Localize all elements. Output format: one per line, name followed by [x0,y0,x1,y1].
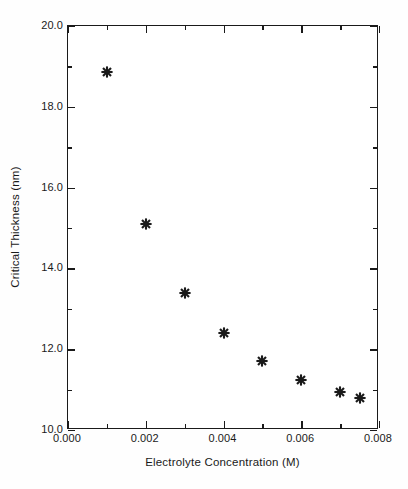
data-point-7[interactable] [353,391,366,404]
data-point-0[interactable] [100,66,113,79]
x-tick-label-0: 0.000 [53,432,81,444]
data-point-2[interactable] [178,286,191,299]
y-axis-title: Critical Thickness (nm) [6,25,24,429]
y-tick-label-4: 16.0 [41,181,63,193]
data-point-1[interactable] [139,217,152,230]
x-tick-top-8 [379,26,380,33]
data-point-5[interactable] [295,373,308,386]
plot-area [67,25,378,429]
data-point-4[interactable] [256,355,269,368]
data-point-6[interactable] [334,385,347,398]
y-tick-label-8: 12.0 [41,342,63,354]
figure-canvas: Critical Thickness (nm) 20.018.016.014.0… [0,0,408,489]
x-tick-label-4: 0.004 [208,432,236,444]
y-tick-label-2: 18.0 [41,100,63,112]
x-tick-8 [379,421,380,428]
data-point-3[interactable] [217,327,230,340]
x-axis-title: Electrolyte Concentration (M) [67,456,378,468]
x-tick-label-2: 0.002 [131,432,159,444]
x-tick-label-6: 0.006 [286,432,314,444]
y-axis-title-text: Critical Thickness (nm) [9,166,21,287]
scatter-series [68,26,377,428]
y-tick-label-0: 20.0 [41,19,63,31]
x-tick-label-8: 0.008 [364,432,392,444]
y-tick-label-6: 14.0 [41,261,63,273]
